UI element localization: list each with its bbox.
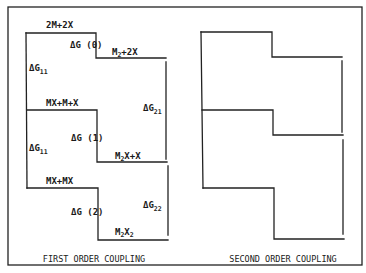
delta-g11-lower-label: ΔG11 <box>29 143 48 156</box>
level-2-step-line <box>203 188 344 239</box>
second-order-diagram: SECOND ORDER COUPLING <box>201 32 344 264</box>
delta-g-0-label: ΔG (0) <box>70 40 103 50</box>
delta-g21-label: ΔG21 <box>143 103 162 116</box>
outer-frame <box>8 7 362 265</box>
coupling-diagram-figure: 2M+2X ΔG (0) M2+2X ΔG11 MX+M+X ΔG21 ΔG (… <box>0 0 366 273</box>
state-label-m2-2x: M2+2X <box>112 47 138 59</box>
first-order-diagram: 2M+2X ΔG (0) M2+2X ΔG11 MX+M+X ΔG21 ΔG (… <box>26 20 168 264</box>
state-label-mx-mx: MX+MX <box>46 176 74 186</box>
delta-g11-upper-label: ΔG11 <box>29 63 48 76</box>
first-order-caption: FIRST ORDER COUPLING <box>43 254 145 264</box>
level-1-step-line <box>202 110 343 135</box>
state-label-2m-2x: 2M+2X <box>46 20 74 30</box>
delta-g-1-label: ΔG (1) <box>71 133 104 143</box>
left-vertical-line <box>26 33 27 188</box>
state-label-m2x2: M2X2 <box>115 227 134 239</box>
state-label-m2x-x: M2X+X <box>115 151 141 163</box>
delta-g22-label: ΔG22 <box>143 200 162 213</box>
level-0-step-line <box>201 32 342 57</box>
delta-g-2-label: ΔG (2) <box>71 207 104 217</box>
state-label-mx-m-x: MX+M+X <box>46 98 79 108</box>
second-order-caption: SECOND ORDER COUPLING <box>229 254 336 264</box>
